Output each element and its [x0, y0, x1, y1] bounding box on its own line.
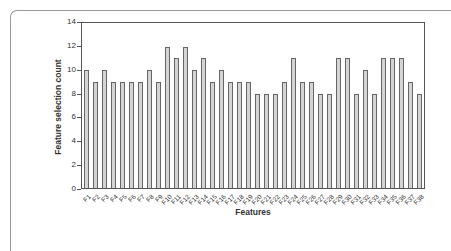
y-axis-label: Feature selection count	[53, 59, 63, 154]
bar-f35	[390, 58, 395, 188]
bar-f38	[417, 94, 422, 188]
bar-f15	[210, 82, 215, 188]
bar-f18	[237, 82, 242, 188]
bar-f33	[372, 94, 377, 188]
bar-f24	[291, 58, 296, 188]
bar-f6	[129, 82, 134, 188]
bar-f27	[318, 94, 323, 188]
x-axis-label: Features	[235, 207, 270, 217]
bar-f14	[201, 58, 206, 188]
bar-f29	[336, 58, 341, 188]
bar-f12	[183, 47, 188, 188]
bar-f31	[354, 94, 359, 188]
bar-f20	[255, 94, 260, 188]
bar-f19	[246, 82, 251, 188]
bar-f26	[309, 82, 314, 188]
y-tick-label: 2	[60, 160, 76, 169]
bar-f37	[408, 82, 413, 188]
bar-f10	[165, 47, 170, 188]
bar-f32	[363, 70, 368, 188]
y-tick-label: 12	[60, 41, 76, 50]
bar-f23	[282, 82, 287, 188]
bar-f4	[111, 82, 116, 188]
bar-f22	[273, 94, 278, 188]
bar-f16	[219, 70, 224, 188]
bar-f9	[156, 82, 161, 188]
bar-f17	[228, 82, 233, 188]
bar-f2	[93, 82, 98, 188]
bar-f11	[174, 58, 179, 188]
plot-area	[81, 22, 425, 189]
y-tick-label: 14	[60, 17, 76, 26]
y-tick-mark	[77, 189, 81, 190]
y-tick-label: 0	[60, 184, 76, 193]
bar-f3	[102, 70, 107, 188]
bar-f34	[381, 58, 386, 188]
bar-f25	[300, 82, 305, 188]
bar-f1	[84, 70, 89, 188]
bar-f7	[138, 82, 143, 188]
bar-f21	[264, 94, 269, 188]
bar-f36	[399, 58, 404, 188]
bar-f30	[345, 58, 350, 188]
bar-f5	[120, 82, 125, 188]
bar-f28	[327, 94, 332, 188]
bar-f8	[147, 70, 152, 188]
bar-f13	[192, 70, 197, 188]
